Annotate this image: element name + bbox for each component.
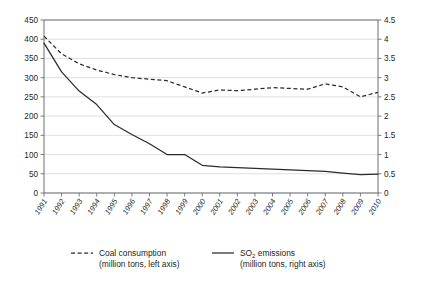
legend-label-coal-consumption: Coal consumption (99, 248, 166, 258)
right-axis-tick-label: 3.5 (384, 54, 396, 63)
left-axis-tick-label: 200 (24, 112, 38, 121)
left-axis-tick-label: 300 (24, 74, 38, 83)
right-axis-tick-label: 2.5 (384, 93, 396, 102)
legend-label-so2-emissions: SO2 emissions (240, 248, 295, 259)
left-axis-tick-label: 50 (29, 170, 39, 179)
legend-sublabel-so2-emissions: (million tons, right axis) (240, 259, 326, 269)
legend-label-so2-suffix: emissions (255, 248, 295, 258)
left-axis-tick-label: 250 (24, 93, 38, 102)
line-chart: 050100150200250300350400450 00.511.522.5… (0, 0, 426, 288)
left-axis-tick-label: 0 (33, 189, 38, 198)
left-axis-tick-label: 350 (24, 54, 38, 63)
right-axis-tick-label: 1.5 (384, 131, 396, 140)
left-axis-tick-label: 400 (24, 35, 38, 44)
right-axis-tick-label: 2 (384, 112, 389, 121)
left-axis-tick-label: 150 (24, 131, 38, 140)
chart-figure: 050100150200250300350400450 00.511.522.5… (0, 0, 426, 288)
left-axis-tick-label: 450 (24, 16, 38, 25)
left-axis-tick-label: 100 (24, 151, 38, 160)
right-axis-tick-label: 4.5 (384, 16, 396, 25)
chart-background (0, 0, 426, 288)
right-axis-tick-label: 4 (384, 35, 389, 44)
right-axis-tick-label: 3 (384, 74, 389, 83)
right-axis-tick-label: 0 (384, 189, 389, 198)
legend-sublabel-coal-consumption: (million tons, left axis) (99, 259, 180, 269)
right-axis-tick-label: 1 (384, 151, 389, 160)
right-axis-tick-label: 0.5 (384, 170, 396, 179)
legend-label-so2-prefix: SO (240, 248, 253, 258)
